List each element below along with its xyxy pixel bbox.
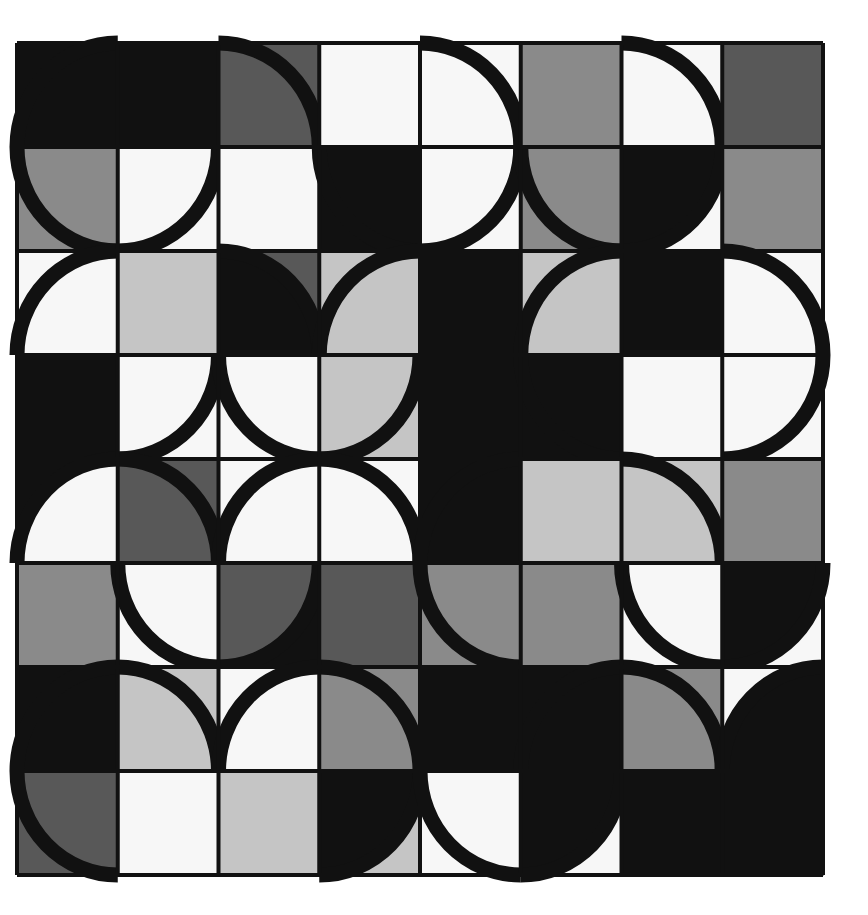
pattern-cell [420,771,521,876]
pattern-cell [521,563,622,668]
pattern-cell [319,667,420,772]
cell-background [420,251,521,356]
pattern-cell [319,563,420,668]
pattern-cell [420,43,521,148]
cell-background [219,771,320,876]
pattern-cell [118,667,219,772]
pattern-cell [622,563,723,668]
pattern-cell [622,459,723,564]
pattern-cell [420,147,521,252]
pattern-cell [521,43,622,148]
pattern-cell [118,563,219,668]
pattern-cell [319,147,420,252]
pattern-cell [722,251,823,356]
pattern-cell [420,251,521,356]
pattern-cell [521,147,622,252]
pattern-cell [219,251,320,356]
pattern-cell [17,147,118,252]
pattern-cell [722,43,823,148]
pattern-cell [622,251,723,356]
cell-background [420,667,521,772]
pattern-cell [722,771,823,876]
cell-background [622,771,723,876]
pattern-cell [17,251,118,356]
pattern-cell [219,147,320,252]
cell-background [420,355,521,460]
pattern-cell [118,251,219,356]
cell-background [521,459,622,564]
pattern-cell [420,563,521,668]
pattern-cell [118,355,219,460]
artboard [0,0,868,915]
pattern-cell [722,563,823,668]
cell-background [118,251,219,356]
cell-background [521,563,622,668]
pattern-cell [420,355,521,460]
cell-background [722,459,823,564]
pattern-cell [17,667,118,772]
cell-background [17,563,118,668]
cell-background [319,563,420,668]
pattern-cell [219,43,320,148]
pattern-cell [319,43,420,148]
pattern-cell [118,459,219,564]
pattern-cell [521,771,622,876]
pattern-cell [17,459,118,564]
pattern-cell [622,771,723,876]
pattern-cell [521,667,622,772]
pattern-cell [17,563,118,668]
pattern-cell [319,771,420,876]
pattern-cell [722,147,823,252]
pattern-cell [219,459,320,564]
pattern-cell [521,355,622,460]
pattern-cell [219,355,320,460]
pattern-cell [118,771,219,876]
pattern-cell [622,147,723,252]
cell-background [722,147,823,252]
cell-background [118,43,219,148]
pattern-cell [420,459,521,564]
cell-background [622,251,723,356]
pattern-cell [521,459,622,564]
pattern-cell [17,43,118,148]
pattern-cell [521,251,622,356]
pattern-cell [319,355,420,460]
pattern-cell [722,459,823,564]
pattern-cell [219,667,320,772]
pattern-cell [118,43,219,148]
pattern-cell [219,563,320,668]
pattern-cell [17,771,118,876]
pattern-cell [722,355,823,460]
cell-background [319,43,420,148]
cell-background [118,771,219,876]
pattern-cell [17,355,118,460]
cell-background [219,147,320,252]
pattern-cell [319,459,420,564]
pattern-cell [219,771,320,876]
pattern-cell [722,667,823,772]
pattern-cell [622,667,723,772]
pattern-cell [420,667,521,772]
cell-background [521,43,622,148]
cell-background [17,355,118,460]
pattern-cell [622,355,723,460]
pattern-cell [319,251,420,356]
geometric-pattern [0,0,868,915]
pattern-cell [118,147,219,252]
cell-background [722,771,823,876]
pattern-cell [622,43,723,148]
cell-background [622,355,723,460]
cell-background [722,43,823,148]
